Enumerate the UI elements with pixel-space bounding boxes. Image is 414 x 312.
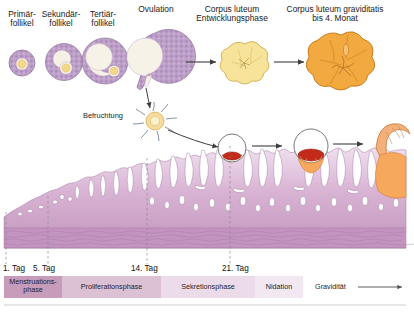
- tertiary-follicle: [82, 38, 128, 84]
- phase-label-sekretion: Sekretionsphase: [161, 283, 255, 291]
- ovulating-follicle: [127, 29, 196, 89]
- label-ovulation: Ovulation: [122, 5, 190, 14]
- arrow-ovum-to-implantation: [168, 130, 218, 147]
- decidua-orange-mass: [375, 152, 406, 198]
- phase-label-graviditaet: Gravidität: [303, 283, 358, 291]
- corpus-luteum-cavity: [343, 44, 348, 56]
- corpus-luteum-developing: [220, 42, 269, 84]
- ovum-nucleus: [150, 116, 159, 125]
- day-label-1: 1. Tag: [3, 264, 25, 273]
- phase-label-menstruation: Menstruations- phase: [4, 278, 62, 294]
- arrow-follicle-to-ovum: [146, 88, 150, 108]
- label-sekundaerfollikel: Sekundär- follikel: [39, 10, 83, 29]
- corpus-luteum-graviditatis: [306, 32, 374, 90]
- day-label-5: 5. Tag: [33, 264, 55, 273]
- implantation-stage-3: [375, 124, 410, 198]
- phase-label-nidation: Nidation: [255, 283, 303, 291]
- implantation-stage-1: [218, 134, 246, 162]
- ovum-fertilization: [133, 88, 218, 147]
- day-label-21: 21. Tag: [222, 264, 249, 273]
- label-primaerfollikel: Primär- follikel: [2, 10, 42, 29]
- secondary-follicle: [46, 44, 83, 81]
- day-label-14: 14. Tag: [131, 264, 158, 273]
- label-corpus-luteum-entwicklungsphase: Corpus luteum Entwicklungsphase: [190, 5, 274, 24]
- label-befruchtung: Befruchtung: [83, 111, 123, 120]
- label-corpus-luteum-graviditatis: Corpus luteum graviditatis bis 4. Monat: [268, 5, 402, 24]
- phase-label-proliferation: Proliferationsphase: [62, 283, 161, 291]
- menstrual-cycle-diagram: [0, 0, 414, 312]
- endometrium-block: [4, 148, 414, 248]
- label-tertiaerfollikel: Tertiär- follikel: [82, 10, 124, 29]
- primary-follicle: [9, 50, 35, 76]
